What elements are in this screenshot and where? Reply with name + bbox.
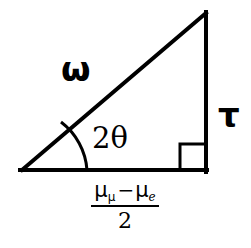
minus-operator: − <box>115 178 135 202</box>
fraction-bar <box>91 205 158 207</box>
base-label: μμ−μe 2 <box>70 180 180 232</box>
fraction-denominator: 2 <box>91 209 158 232</box>
mu-electron-symbol: μ <box>135 178 148 202</box>
angle-label: 2θ <box>92 124 128 153</box>
angle-arc <box>61 122 87 170</box>
hypotenuse-label: ω <box>61 52 91 86</box>
vertical-side-label: τ <box>218 98 240 132</box>
base-fraction: μμ−μe 2 <box>91 180 158 232</box>
mu-electron-subscript: e <box>149 190 156 204</box>
right-angle-marker-icon <box>180 144 206 170</box>
fraction-numerator: μμ−μe <box>91 180 158 204</box>
figure-container: ω τ 2θ μμ−μe 2 <box>0 0 251 248</box>
mu-muon-symbol: μ <box>94 178 107 202</box>
